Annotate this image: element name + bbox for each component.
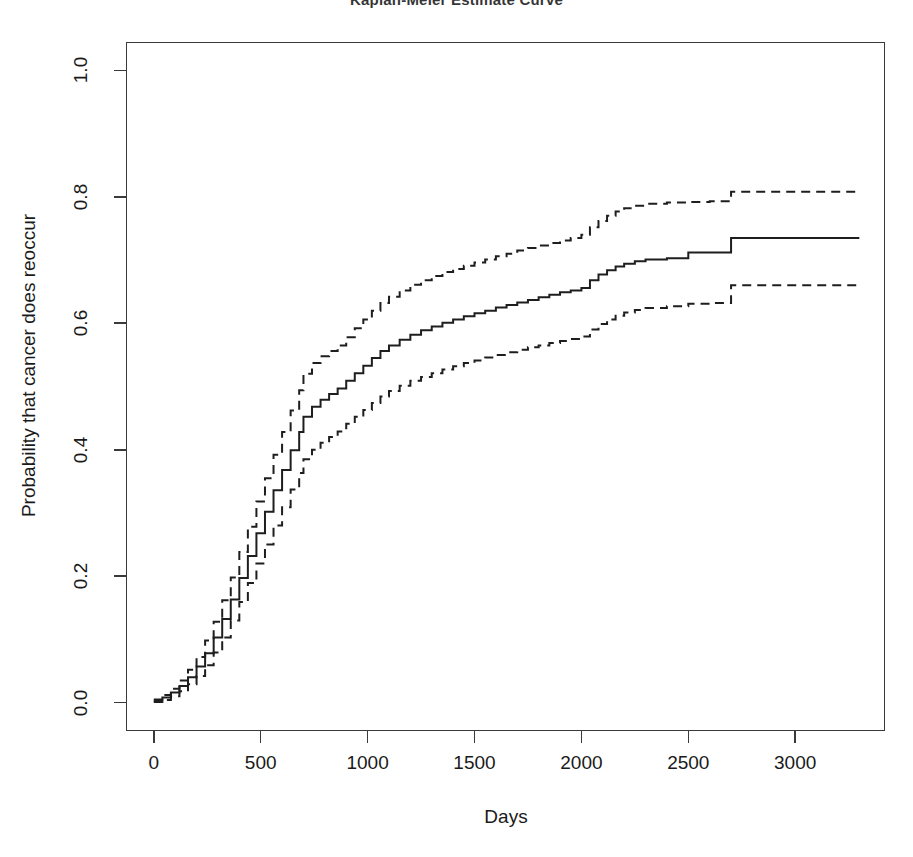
x-tick-label: 3000 [750,752,840,774]
curve-confidence-band [154,285,860,702]
x-tick-label: 1500 [429,752,519,774]
x-tick-label: 500 [216,752,306,774]
y-tick-label: 0.2 [70,553,92,599]
y-tick-mark [114,449,126,451]
curve-confidence-band [154,192,860,700]
x-tick-label: 0 [109,752,199,774]
y-tick-mark [114,322,126,324]
x-tick-mark [367,731,369,743]
y-tick-mark [114,575,126,577]
chart-title: Kaplan-Meier Estimate Curve [0,0,913,8]
y-tick-label: 0.6 [70,300,92,346]
x-tick-label: 2500 [643,752,733,774]
y-tick-label: 0.8 [70,174,92,220]
x-tick-mark [688,731,690,743]
kaplan-meier-figure: Kaplan-Meier Estimate Curve Probability … [0,0,913,857]
x-tick-mark [153,731,155,743]
x-axis-label: Days [126,806,886,828]
x-tick-mark [474,731,476,743]
x-tick-label: 2000 [536,752,626,774]
y-tick-label: 0.4 [70,427,92,473]
survival-curves [126,42,885,731]
y-axis-label: Probability that cancer does reoccur [18,0,48,731]
y-tick-mark [114,70,126,72]
y-tick-label: 1.0 [70,47,92,93]
x-tick-mark [581,731,583,743]
y-tick-label: 0.0 [70,680,92,726]
x-tick-mark [260,731,262,743]
y-tick-mark [114,702,126,704]
x-tick-mark [794,731,796,743]
curve-estimate [154,238,860,701]
y-tick-mark [114,196,126,198]
x-tick-label: 1000 [323,752,413,774]
